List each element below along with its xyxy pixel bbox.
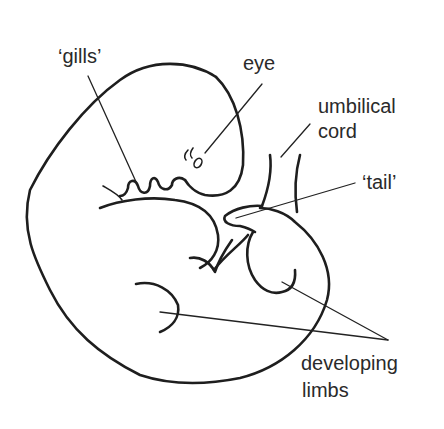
leader-gills: [88, 76, 137, 184]
leader-umbilical: [281, 124, 310, 157]
umbilical-left: [262, 155, 271, 206]
leader-eye: [205, 84, 262, 153]
label-eye: eye: [243, 51, 275, 75]
label-gills: ‘gills’: [58, 44, 101, 68]
gill-flap: [103, 186, 122, 200]
tail: [224, 206, 262, 232]
gill-arches: [120, 178, 185, 196]
body-outline: [27, 64, 329, 383]
eye-shape: [192, 157, 203, 169]
hind-limb: [247, 232, 295, 293]
leader-limbs-fore: [160, 312, 388, 340]
label-limbs-line2: limbs: [302, 378, 349, 402]
label-umbilical-line1: umbilical: [318, 94, 396, 118]
label-tail: ‘tail’: [362, 170, 396, 194]
eye-arc-2: [191, 148, 193, 158]
umbilical-right: [296, 155, 300, 212]
label-limbs-line1: developing: [301, 351, 398, 375]
leader-limbs-hind: [282, 282, 388, 340]
eye-arc-1: [185, 150, 188, 160]
embryo-diagram: ‘gills’ eye umbilical cord ‘tail’ develo…: [0, 0, 444, 429]
head-front: [185, 77, 243, 196]
fore-limb: [136, 283, 178, 332]
label-umbilical-line2: cord: [318, 119, 357, 143]
